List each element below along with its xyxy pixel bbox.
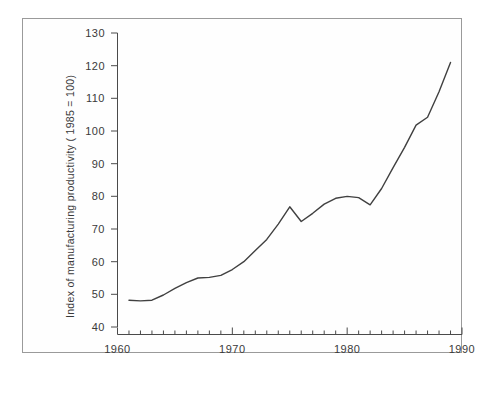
y-tick-label-70: 70 (92, 223, 105, 235)
x-tick-label-1970: 1970 (219, 343, 245, 355)
x-tick-label-1990: 1990 (449, 343, 475, 355)
y-tick-label-120: 120 (85, 60, 105, 72)
x-tick-label-1980: 1980 (334, 343, 360, 355)
y-tick-label-40: 40 (92, 321, 105, 333)
y-tick-label-50: 50 (92, 288, 105, 300)
y-axis-label: Index of manufacturing productivity ( 19… (64, 75, 76, 318)
data-series-line (129, 62, 451, 300)
x-tick-label-1960: 1960 (104, 343, 130, 355)
y-tick-label-60: 60 (92, 256, 105, 268)
y-axis-ticks (111, 33, 118, 327)
y-tick-label-90: 90 (92, 158, 105, 170)
y-tick-label-110: 110 (86, 92, 105, 104)
y-tick-label-130: 130 (85, 27, 105, 39)
y-tick-label-80: 80 (92, 190, 105, 202)
productivity-line-chart: Index of manufacturing productivity ( 19… (0, 0, 504, 393)
x-axis-ticks (118, 328, 463, 335)
y-tick-label-100: 100 (85, 125, 105, 137)
